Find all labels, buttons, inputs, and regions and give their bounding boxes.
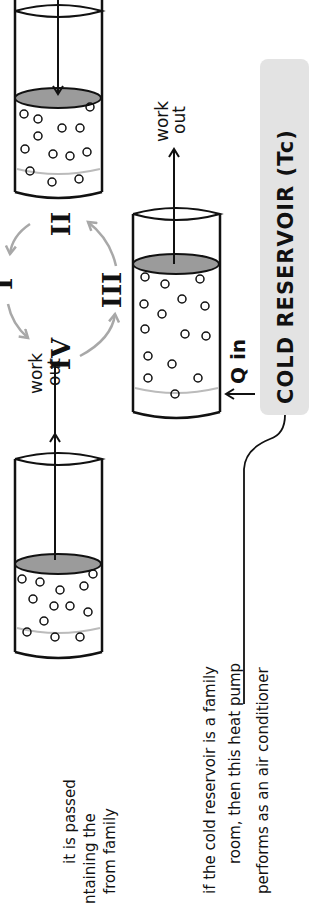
work-out-left: work out <box>26 353 64 454</box>
stage-label-3: III <box>97 272 127 309</box>
partial-line-3: from family <box>101 808 119 894</box>
cylinder-stage-3 <box>133 149 220 418</box>
heat-pump-diagram: II I III IV work out <box>0 0 309 904</box>
annotation-air-conditioner: if the cold reservoir is a family room, … <box>201 663 272 894</box>
work-label-left: work <box>26 353 46 394</box>
cycle-diagram: II I III IV <box>0 212 127 370</box>
out-label-left: out <box>44 358 64 386</box>
annotation-line-2: room, then this heat pump <box>226 663 244 864</box>
cylinder-stage-2 <box>15 0 102 198</box>
partial-line-2: ntaining the <box>81 813 99 904</box>
cylinder-stage-4 <box>15 434 102 658</box>
connector-line <box>244 415 285 704</box>
out-label-right: out <box>169 106 189 134</box>
gas-particles <box>140 273 210 398</box>
stage-label-1: I <box>0 278 18 290</box>
annotation-line-3: performs as an air conditioner <box>254 666 272 894</box>
annotation-line-1: if the cold reservoir is a family <box>201 666 219 894</box>
cold-reservoir-label: COLD RESERVOIR (Tc) <box>274 129 298 404</box>
stage-label-2: II <box>46 212 76 236</box>
heat-in-label: Q in <box>226 339 250 384</box>
partial-line-1: it is passed <box>61 779 79 864</box>
cold-reservoir: COLD RESERVOIR (Tc) <box>260 59 309 415</box>
annotation-partial: it is passed ntaining the from family <box>61 779 119 904</box>
